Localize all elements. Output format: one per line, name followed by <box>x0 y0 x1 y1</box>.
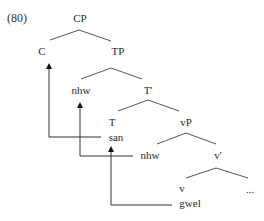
node-v: v <box>179 182 185 194</box>
arrowhead-icon <box>77 102 83 108</box>
node-t: T <box>109 116 116 128</box>
node-cp: CP <box>73 12 86 24</box>
tree-lines <box>0 0 264 221</box>
tree-branch <box>50 30 111 41</box>
arrowhead-icon <box>46 63 52 69</box>
node-t-bar: T' <box>144 84 153 96</box>
node-complement: ... <box>246 183 254 195</box>
node-t-word: san <box>109 131 124 143</box>
arrowhead-icon <box>108 146 114 152</box>
node-c: C <box>38 45 45 57</box>
node-vp: vP <box>180 116 192 128</box>
node-spec-vp: nhw <box>141 149 160 161</box>
tree-branch <box>81 68 142 79</box>
node-tp: TP <box>112 45 125 57</box>
movement-arrow-san-to-C <box>49 68 101 137</box>
node-spec-tp: nhw <box>72 84 91 96</box>
movement-arrow-nhw-to-SpecTP <box>80 107 133 156</box>
tree-branch <box>118 100 179 111</box>
node-v-bar: v' <box>214 149 221 161</box>
node-v-word: gwel <box>179 197 200 209</box>
tree-branch <box>186 168 248 178</box>
tree-branch <box>157 133 216 144</box>
